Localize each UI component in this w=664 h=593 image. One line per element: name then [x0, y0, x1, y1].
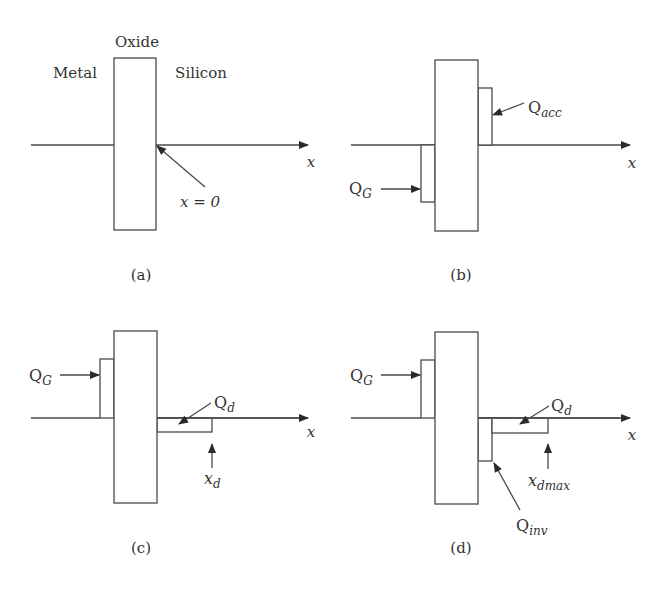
q-g-label: QG	[350, 366, 373, 388]
q-acc-arrow	[493, 103, 524, 115]
origin-label: x = 0	[180, 193, 221, 211]
gate-charge-block	[100, 359, 114, 418]
x-dmax-label: xdmax	[528, 471, 570, 493]
q-d-label: Qd	[551, 396, 572, 418]
panel-b: x Qacc QG (b)	[349, 60, 637, 284]
x-axis-label: x	[628, 154, 637, 172]
q-d-label: Qd	[214, 393, 235, 415]
gate-charge-block	[421, 360, 435, 418]
q-acc-label: Qacc	[528, 98, 562, 120]
gate-charge-block	[421, 145, 435, 202]
panel-caption-d: (d)	[450, 539, 471, 557]
silicon-label: Silicon	[175, 64, 227, 82]
q-g-label: QG	[29, 366, 52, 388]
accumulation-charge-block	[478, 88, 492, 145]
x-d-label: xd	[204, 469, 221, 491]
oxide-layer	[114, 331, 157, 503]
panel-c: x QG Qd xd (c)	[29, 331, 316, 557]
q-inv-arrow	[494, 463, 520, 510]
inversion-charge-block	[478, 418, 492, 461]
x-axis-label: x	[628, 426, 637, 444]
q-g-label: QG	[349, 179, 372, 201]
x-axis-label: x	[307, 423, 316, 441]
panel-caption-b: (b)	[450, 266, 471, 284]
panel-d: x QG Qd xdmax Qinv (d)	[350, 332, 637, 557]
oxide-layer	[435, 332, 478, 504]
depletion-charge-block	[492, 418, 548, 433]
oxide-layer	[114, 58, 156, 230]
panel-caption-a: (a)	[131, 266, 152, 284]
panel-a: Oxide Metal Silicon x x = 0 (a)	[31, 33, 316, 284]
metal-label: Metal	[53, 64, 97, 82]
origin-pointer-arrow	[157, 146, 205, 187]
panel-caption-c: (c)	[131, 539, 151, 557]
q-inv-label: Qinv	[516, 516, 548, 538]
mos-charge-diagram: Oxide Metal Silicon x x = 0 (a) x Qacc Q…	[0, 0, 664, 593]
x-axis-label: x	[307, 153, 316, 171]
oxide-layer	[435, 60, 478, 231]
oxide-label: Oxide	[115, 33, 159, 51]
